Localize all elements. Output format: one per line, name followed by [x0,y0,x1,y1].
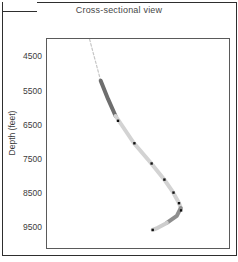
trajectory-segment-upper-section-dashed [90,39,101,80]
y-tick-label: 7500 [12,155,42,164]
y-tick-label: 8500 [12,189,42,198]
survey-point-marker [152,229,154,231]
figure-panel-b: { "panel": { "label": "b." }, "chart_dat… [0,0,238,262]
trajectory-segment-hook-section-dark [167,208,181,223]
y-tick-label: 5500 [12,87,42,96]
survey-point-marker [117,120,119,122]
trajectory-segment-build-section-dark [101,81,116,116]
survey-point-marker [163,178,165,180]
survey-point-marker [178,202,180,204]
y-tick-label: 4500 [12,52,42,61]
survey-point-marker [180,209,182,211]
trajectory-segment-build-section-light [116,116,181,208]
survey-point-marker [150,162,152,164]
trajectory-segment-hook-end-light [153,223,167,230]
y-tick-label: 9500 [12,223,42,232]
survey-point-marker [133,142,135,144]
panel-label-box [3,0,37,12]
plot-area [46,38,230,249]
y-axis-label: Depth (feet) [7,83,19,183]
well-trajectory-chart [47,39,229,248]
survey-point-marker [172,191,174,193]
y-tick-label: 6500 [12,121,42,130]
